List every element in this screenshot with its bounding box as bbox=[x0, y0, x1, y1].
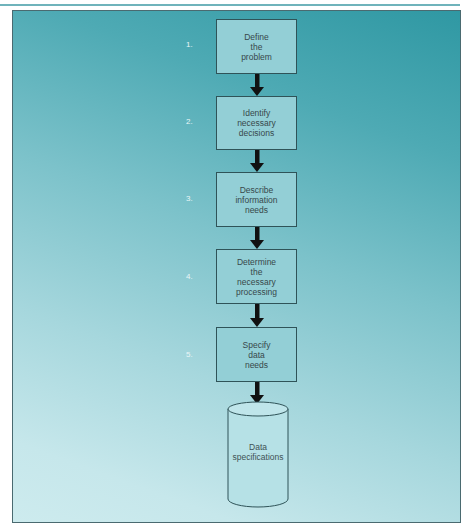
down-arrow-icon bbox=[250, 227, 264, 250]
down-arrow-icon bbox=[250, 304, 264, 328]
step-number-4: 4. bbox=[186, 272, 206, 281]
step-number-1: 1. bbox=[186, 40, 206, 49]
down-arrow-icon bbox=[250, 74, 264, 97]
step-label: Define the problem bbox=[241, 32, 272, 62]
step-number-3: 3. bbox=[186, 194, 206, 203]
step-box-determine-processing: Determine the necessary processing bbox=[216, 249, 297, 304]
step-box-define-problem: Define the problem bbox=[216, 19, 297, 74]
step-label: Specify data needs bbox=[243, 340, 271, 370]
step-number-5: 5. bbox=[186, 350, 206, 359]
step-box-identify-decisions: Identify necessary decisions bbox=[216, 96, 297, 150]
step-label: Determine the necessary processing bbox=[236, 257, 277, 297]
data-specifications-label: Data specifications bbox=[226, 442, 290, 462]
step-box-describe-information: Describe information needs bbox=[216, 172, 297, 227]
step-label: Identify necessary decisions bbox=[237, 108, 276, 138]
step-box-specify-data: Specify data needs bbox=[216, 327, 297, 382]
step-label: Describe information needs bbox=[235, 185, 277, 215]
step-number-2: 2. bbox=[186, 117, 206, 126]
down-arrow-icon bbox=[250, 150, 264, 173]
top-rule bbox=[0, 4, 460, 6]
